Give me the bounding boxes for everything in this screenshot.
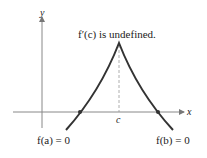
root-a-point xyxy=(78,110,82,114)
c-label: c xyxy=(116,115,120,125)
y-axis-label: y xyxy=(40,8,44,18)
left-root-label: f(a) = 0 xyxy=(37,135,70,146)
root-b-point xyxy=(156,110,160,114)
x-axis-label: x xyxy=(187,107,191,117)
title-annotation: f′(c) is undefined. xyxy=(78,29,156,40)
right-root-label: f(b) = 0 xyxy=(156,135,190,146)
